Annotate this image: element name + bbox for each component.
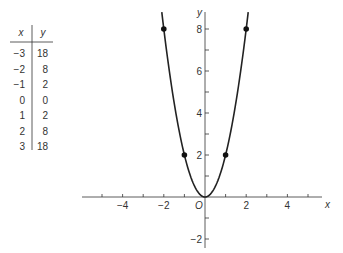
table-cell-y: 0: [42, 95, 48, 106]
x-tick-label: 2: [243, 200, 249, 211]
table-cell-x: 0: [19, 95, 25, 106]
x-tick-label: 4: [285, 200, 291, 211]
y-tick-label: 4: [196, 108, 202, 119]
table-cell-y: 2: [42, 110, 48, 121]
origin-label: O: [195, 200, 203, 211]
table-header-x: x: [18, 27, 25, 38]
table-cell-y: 8: [42, 64, 48, 75]
table-cell-x: −3: [14, 48, 26, 59]
table-cell-x: −2: [14, 64, 26, 75]
x-tick-label: −4: [117, 200, 129, 211]
table-cell-y: 18: [37, 48, 49, 59]
table-cell-x: −1: [14, 79, 26, 90]
x-tick-label: −2: [158, 200, 170, 211]
y-tick-label: 8: [196, 24, 202, 35]
table-cell-x: 3: [19, 141, 25, 152]
y-tick-label: −2: [191, 234, 203, 245]
y-axis-label: y: [196, 7, 203, 18]
table-cell-y: 8: [42, 126, 48, 137]
y-tick-label: 6: [196, 66, 202, 77]
table-cell-x: 2: [19, 126, 25, 137]
data-point-marker: [182, 152, 188, 158]
table-header-y: y: [40, 27, 47, 38]
table-cell-y: 2: [42, 79, 48, 90]
table-cell-x: 1: [19, 110, 25, 121]
figure: xy −318−28−12001228318 −4−224 −22468 x y…: [0, 0, 343, 253]
table-cell-y: 18: [37, 141, 49, 152]
data-point-marker: [223, 152, 229, 158]
data-point-marker: [161, 26, 167, 32]
axes: −4−224 −22468 x y O: [82, 7, 331, 248]
value-table: xy −318−28−12001228318: [10, 25, 53, 152]
x-axis-label: x: [324, 199, 331, 210]
y-tick-label: 2: [196, 150, 202, 161]
data-point-marker: [243, 26, 249, 32]
